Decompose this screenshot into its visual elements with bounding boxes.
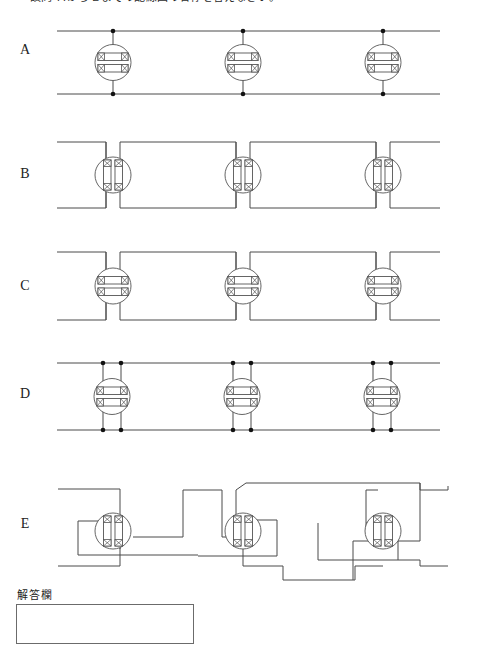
diagram-row-c: [57, 252, 440, 320]
diagram-row-d: [57, 361, 440, 433]
diagram-row-b: [57, 142, 440, 208]
answer-input-box[interactable]: [16, 604, 194, 644]
diagram-row-a: [57, 29, 440, 97]
exam-sheet: 設問 ＡからＥまでの配線図の名称を答えなさい。 A B C D E: [0, 0, 478, 660]
diagram-row-e: [58, 483, 448, 580]
wiring-diagrams: [0, 0, 478, 660]
answer-section-label: 解答欄: [17, 586, 53, 602]
